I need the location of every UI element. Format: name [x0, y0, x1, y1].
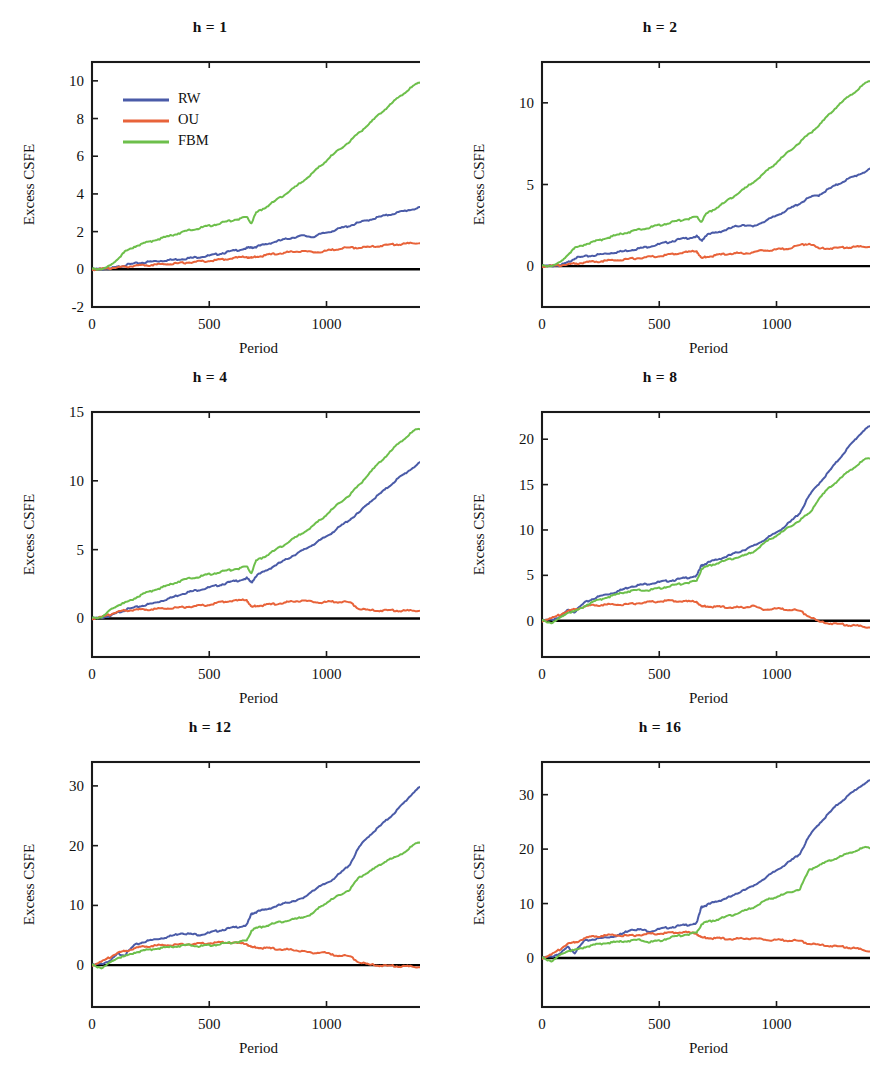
x-tick-label: 0 [88, 316, 96, 332]
series-line-ou [92, 942, 420, 968]
series-line-fbm [92, 427, 420, 618]
x-tick-label: 0 [88, 666, 96, 682]
x-tick-label: 0 [538, 316, 546, 332]
x-tick-label: 1000 [312, 666, 342, 682]
x-tick-label: 1000 [762, 316, 792, 332]
x-tick-label: 0 [538, 666, 546, 682]
y-axis-label: Excess CSFE [21, 494, 37, 575]
y-tick-label: 30 [69, 778, 84, 794]
y-tick-label: 10 [69, 73, 84, 89]
x-axis-label: Period [239, 1040, 279, 1056]
y-axis-label: Excess CSFE [471, 494, 487, 575]
x-axis-label: Period [239, 690, 279, 706]
y-tick-label: 20 [519, 841, 534, 857]
y-tick-label: 0 [527, 613, 535, 629]
panel-h4: h = 405101505001000PeriodExcess CSFE [0, 366, 420, 716]
x-axis-label: Period [689, 690, 729, 706]
panel-h8: h = 80510152005001000PeriodExcess CSFE [450, 366, 870, 716]
x-tick-label: 1000 [312, 1016, 342, 1032]
axis-frame [542, 62, 870, 307]
y-tick-label: 0 [77, 610, 85, 626]
x-tick-label: 500 [198, 666, 221, 682]
series-line-fbm [542, 78, 870, 267]
y-tick-label: 20 [69, 838, 84, 854]
series-line-rw [92, 785, 420, 965]
y-tick-label: 8 [77, 111, 85, 127]
y-tick-label: 5 [77, 542, 85, 558]
y-tick-label: 20 [519, 431, 534, 447]
y-tick-label: -2 [72, 299, 85, 315]
x-tick-label: 500 [648, 1016, 671, 1032]
x-tick-label: 1000 [762, 666, 792, 682]
legend-label-fbm: FBM [178, 132, 209, 148]
panel-h16: h = 16010203005001000PeriodExcess CSFE [450, 716, 870, 1066]
axis-frame [92, 762, 420, 1007]
y-tick-label: 5 [527, 177, 535, 193]
panel-h12: h = 12010203005001000PeriodExcess CSFE [0, 716, 420, 1066]
y-tick-label: 0 [527, 950, 535, 966]
y-tick-label: 6 [77, 148, 85, 164]
series-line-fbm [92, 840, 420, 969]
plot-area: -2024681005001000PeriodExcess CSFERWOUFB… [0, 16, 420, 366]
plot-area: 0510152005001000PeriodExcess CSFE [450, 366, 870, 716]
series-line-rw [542, 779, 870, 958]
y-axis-label: Excess CSFE [21, 144, 37, 225]
series-line-ou [542, 600, 870, 628]
axis-frame [542, 762, 870, 1007]
legend-label-ou: OU [178, 111, 199, 127]
plot-area: 010203005001000PeriodExcess CSFE [450, 716, 870, 1066]
figure-canvas: h = 1-2024681005001000PeriodExcess CSFER… [0, 0, 888, 1070]
y-tick-label: 15 [519, 477, 534, 493]
x-axis-label: Period [239, 340, 279, 356]
y-tick-label: 0 [527, 258, 535, 274]
series-line-fbm [92, 79, 420, 270]
y-tick-label: 10 [69, 897, 84, 913]
y-tick-label: 0 [77, 957, 85, 973]
y-tick-label: 4 [77, 186, 85, 202]
axis-frame [92, 412, 420, 657]
y-axis-label: Excess CSFE [21, 844, 37, 925]
x-tick-label: 500 [648, 666, 671, 682]
legend-label-rw: RW [178, 90, 201, 106]
x-tick-label: 500 [648, 316, 671, 332]
y-tick-label: 10 [519, 522, 534, 538]
series-line-ou [92, 599, 420, 619]
x-axis-label: Period [689, 340, 729, 356]
plot-area: 051005001000PeriodExcess CSFE [450, 16, 870, 366]
series-line-rw [92, 207, 420, 270]
y-tick-label: 10 [519, 95, 534, 111]
series-line-rw [542, 426, 870, 621]
x-tick-label: 0 [538, 1016, 546, 1032]
x-tick-label: 500 [198, 316, 221, 332]
y-tick-label: 10 [69, 473, 84, 489]
y-axis-label: Excess CSFE [471, 144, 487, 225]
x-tick-label: 0 [88, 1016, 96, 1032]
y-tick-label: 10 [519, 896, 534, 912]
x-tick-label: 1000 [762, 1016, 792, 1032]
legend: RWOUFBM [123, 90, 209, 148]
y-tick-label: 30 [519, 787, 534, 803]
x-axis-label: Period [689, 1040, 729, 1056]
panel-h2: h = 2051005001000PeriodExcess CSFE [450, 16, 870, 366]
series-line-rw [542, 167, 870, 266]
x-tick-label: 500 [198, 1016, 221, 1032]
plot-area: 010203005001000PeriodExcess CSFE [0, 716, 420, 1066]
y-tick-label: 5 [527, 567, 535, 583]
y-axis-label: Excess CSFE [471, 844, 487, 925]
y-tick-label: 0 [77, 261, 85, 277]
x-tick-label: 1000 [312, 316, 342, 332]
y-tick-label: 2 [77, 224, 85, 240]
panel-h1: h = 1-2024681005001000PeriodExcess CSFER… [0, 16, 420, 366]
plot-area: 05101505001000PeriodExcess CSFE [0, 366, 420, 716]
y-tick-label: 15 [69, 404, 84, 420]
